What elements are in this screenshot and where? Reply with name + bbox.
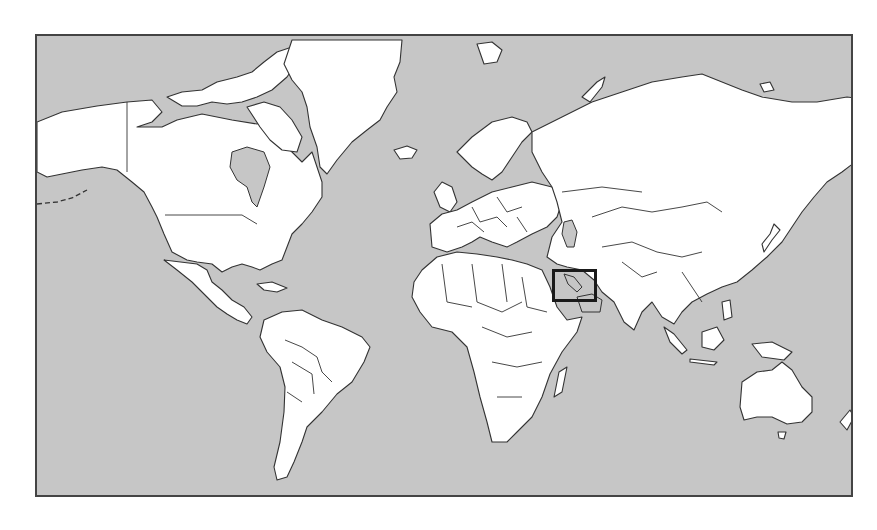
new-siberian-islands — [760, 82, 774, 92]
world-map — [35, 34, 853, 497]
java — [690, 359, 717, 365]
cuba — [257, 282, 287, 292]
mexico-central-america — [164, 260, 252, 324]
new-zealand — [840, 410, 853, 430]
sumatra — [664, 327, 687, 354]
new-guinea — [752, 342, 792, 360]
highlight-box-arabian-peninsula — [552, 269, 597, 302]
greenland — [284, 40, 402, 174]
world-map-svg — [37, 36, 853, 497]
madagascar — [554, 367, 567, 397]
svalbard — [477, 42, 502, 64]
south-america — [260, 310, 370, 480]
aleutian-islands — [37, 190, 87, 204]
scandinavia — [457, 117, 532, 180]
australia — [740, 362, 812, 424]
uk-ireland — [434, 182, 457, 212]
tasmania — [778, 432, 786, 439]
iceland — [394, 146, 417, 159]
philippines — [722, 300, 732, 320]
arctic-archipelago — [167, 47, 297, 106]
borneo — [702, 327, 724, 350]
